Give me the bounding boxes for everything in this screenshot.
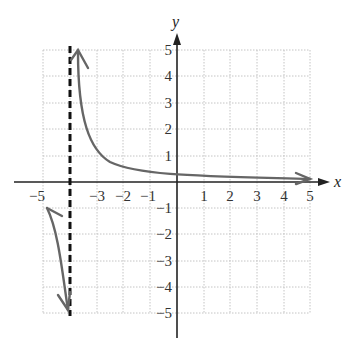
svg-text:−1: −1: [140, 188, 156, 204]
svg-text:1: 1: [200, 188, 208, 204]
svg-text:−5: −5: [156, 305, 172, 321]
svg-text:−3: −3: [89, 188, 105, 204]
x-axis-arrow-icon: [318, 178, 330, 186]
svg-text:−1: −1: [156, 200, 172, 216]
svg-text:3: 3: [165, 95, 173, 111]
x-axis-label: x: [333, 173, 341, 190]
svg-text:−3: −3: [156, 253, 172, 269]
svg-text:5: 5: [165, 42, 173, 58]
svg-text:3: 3: [253, 188, 261, 204]
svg-text:−5: −5: [29, 188, 45, 204]
svg-text:1: 1: [165, 148, 173, 164]
curve: [47, 50, 310, 310]
axes: [14, 33, 330, 338]
svg-text:−4: −4: [156, 279, 172, 295]
svg-text:2: 2: [226, 188, 234, 204]
svg-text:−2: −2: [115, 188, 131, 204]
y-axis-arrow-icon: [173, 33, 181, 45]
graph: −5 −3 −2 −1 1 2 3 4 5 5 4 3 2 1 −1 −2 −3…: [0, 0, 354, 338]
y-axis-label: y: [170, 13, 180, 31]
svg-text:4: 4: [280, 188, 288, 204]
svg-text:2: 2: [165, 121, 173, 137]
svg-text:−2: −2: [156, 226, 172, 242]
svg-text:5: 5: [306, 188, 314, 204]
svg-text:4: 4: [165, 68, 173, 84]
